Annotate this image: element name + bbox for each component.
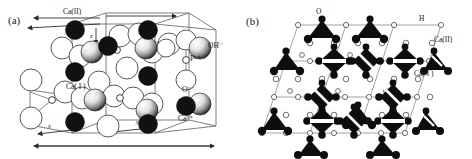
- axis-label-x: x: [48, 122, 51, 129]
- panel-b: (b) O H Ca(II) Ca( I ): [236, 0, 472, 159]
- label-ca1: Ca( I ): [66, 82, 86, 91]
- label-b-hydrogen: H: [419, 14, 424, 23]
- label-b-ca1: Ca( I ): [414, 69, 434, 78]
- axis-label-y: y: [136, 118, 139, 125]
- label-b-oxygen: O: [316, 7, 321, 16]
- label-b-ca2: Ca(II): [434, 35, 452, 44]
- label-oxygen: O²⁻: [182, 85, 194, 94]
- panel-a-tag: (a): [8, 14, 20, 26]
- label-hydroxyl: OH⁻: [208, 41, 223, 50]
- phosphate-tetrahedra: [258, 15, 452, 159]
- label-ca2-top: Ca(II): [63, 7, 81, 16]
- label-phosphorus: P⁵⁺: [190, 54, 201, 63]
- panel-b-tag: (b): [246, 15, 259, 27]
- axis-label-z: z: [90, 32, 93, 39]
- panel-b-graphic: [236, 0, 472, 159]
- figure-root: (a) Ca(II) Ca( I ) OH⁻ P⁵⁺ O²⁻ Ca²⁺ x y …: [0, 0, 472, 159]
- panel-a-graphic: [0, 0, 236, 159]
- panel-a: (a) Ca(II) Ca( I ) OH⁻ P⁵⁺ O²⁻ Ca²⁺ x y …: [0, 0, 236, 159]
- tetra-diamond: [315, 44, 353, 79]
- label-calcium-ion: Ca²⁺: [178, 114, 193, 123]
